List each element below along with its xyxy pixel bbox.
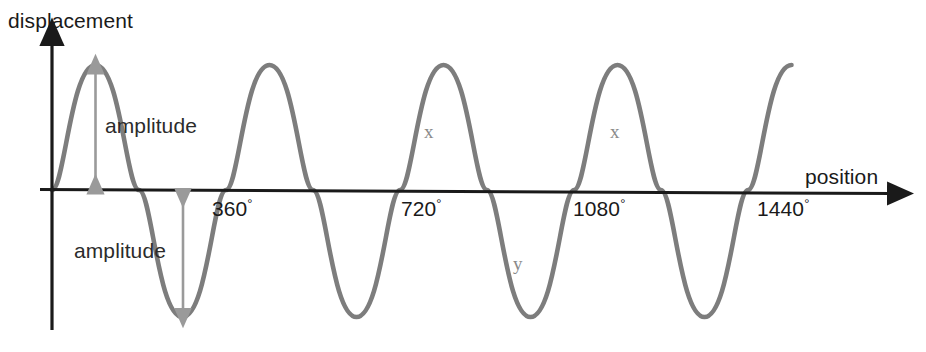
y-axis-label: displacement	[8, 10, 133, 31]
x-axis-line	[40, 190, 893, 194]
x-axis-label: position	[805, 166, 878, 187]
degree-symbol-icon: °	[804, 196, 809, 211]
degree-symbol-icon: °	[620, 196, 625, 211]
point-marker-x2: x	[610, 122, 620, 141]
x-tick-1080-value: 1080	[573, 197, 620, 220]
x-tick-720-value: 720	[401, 197, 436, 220]
x-tick-360: 360°	[212, 197, 253, 219]
x-tick-1440-value: 1440	[757, 197, 804, 220]
point-marker-x1: x	[424, 122, 434, 141]
degree-symbol-icon: °	[436, 196, 441, 211]
degree-symbol-icon: °	[247, 196, 252, 211]
wave-diagram-canvas	[0, 0, 926, 352]
x-tick-1440: 1440°	[757, 197, 809, 219]
x-tick-1080: 1080°	[573, 197, 625, 219]
amplitude-upper-label: amplitude	[105, 115, 197, 136]
wave-diagram-figure: displacement position 360° 720° 1080° 14…	[0, 0, 926, 352]
x-tick-360-value: 360	[212, 197, 247, 220]
point-marker-y1: y	[513, 254, 523, 273]
amplitude-lower-label: amplitude	[74, 240, 166, 261]
x-tick-720: 720°	[401, 197, 442, 219]
